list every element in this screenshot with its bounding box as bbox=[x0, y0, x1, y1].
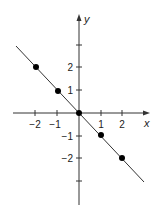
y-axis-arrow-icon bbox=[77, 14, 82, 21]
x-tick-label: −1 bbox=[49, 119, 61, 130]
data-point bbox=[76, 110, 82, 116]
data-point bbox=[55, 88, 61, 94]
data-point bbox=[119, 155, 125, 161]
y-tick-label: −2 bbox=[62, 153, 74, 164]
y-axis-label: y bbox=[83, 13, 91, 25]
x-tick-label: −2 bbox=[29, 119, 41, 130]
data-point bbox=[98, 132, 104, 138]
x-axis-label: x bbox=[143, 117, 150, 129]
x-tick-label: 2 bbox=[119, 119, 125, 130]
coordinate-plane: y x −2 −1 1 2 2 1 −1 −2 bbox=[0, 0, 163, 213]
y-tick-label: −1 bbox=[62, 131, 74, 142]
x-tick-label: 1 bbox=[98, 119, 104, 130]
x-axis-arrow-icon bbox=[143, 111, 150, 116]
data-point bbox=[33, 64, 39, 70]
y-tick-label: 2 bbox=[67, 62, 73, 73]
y-tick-label: 1 bbox=[67, 85, 73, 96]
